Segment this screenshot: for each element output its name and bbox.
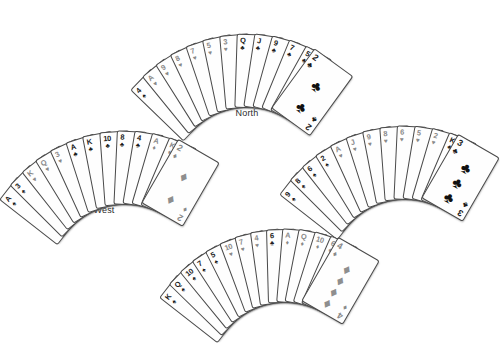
card-corner-index: 8♥: [174, 54, 184, 69]
card-corner-index: A♥: [334, 145, 345, 160]
card-suit-heart-icon: ♥: [44, 166, 51, 174]
card-corner-index: 9♠: [284, 191, 298, 203]
card-suit-diamond-icon: ♦: [152, 145, 157, 152]
card-suit-spade-icon: ♠: [213, 258, 219, 265]
card-corner-index: K♣: [86, 138, 94, 153]
card-suit-heart-icon: ♥: [338, 152, 344, 160]
card-suit-heart-icon: ♥: [240, 246, 245, 253]
card-corner-index: 7♥: [238, 238, 245, 253]
card-suit-club-icon: ♣: [442, 190, 457, 205]
card-suit-club-icon: ♣: [459, 160, 474, 175]
card-suit-heart-icon: ♥: [384, 138, 388, 145]
card-suit-club-icon: ♣: [270, 240, 274, 247]
card-corner-index: A♦: [284, 232, 290, 247]
card-corner-index: 10♦: [313, 235, 325, 251]
card-suit-club-icon: ♣: [72, 151, 78, 158]
card-suit-heart-icon: ♥: [368, 141, 373, 148]
card-corner-index: Q♦: [299, 232, 307, 247]
card-corner-index: 7♠: [196, 260, 207, 274]
card-corner-index: A♣: [70, 143, 79, 158]
card-suit-club-icon: ♣: [450, 175, 465, 190]
card-suit-diamond-icon: ♦: [285, 240, 289, 247]
card-corner-index: 5♥: [415, 129, 421, 144]
card-suit-diamond-icon: ♦: [165, 192, 178, 206]
card-corner-index: 9♣: [271, 39, 279, 54]
card-corner-index: 8♥: [383, 130, 388, 145]
card-suit-spade-icon: ♠: [180, 286, 187, 293]
card-suit-spade-icon: ♠: [201, 266, 207, 273]
card-corner-index: 2♠: [319, 154, 330, 168]
card-suit-heart-icon: ♥: [57, 158, 63, 166]
card-suit-club-icon: ♣: [240, 45, 244, 52]
card-suit-club-icon: ♣: [88, 146, 93, 153]
card-corner-index: K♠: [164, 293, 179, 306]
card-suit-heart-icon: ♥: [192, 55, 198, 62]
card-corner-index: 2♥: [431, 132, 439, 147]
card-corner-index: 5♠: [209, 251, 219, 266]
card-suit-heart-icon: ♥: [208, 49, 213, 56]
card-suit-heart-icon: ♥: [178, 62, 184, 70]
card-suit-spade-icon: ♠: [191, 275, 198, 282]
card-suit-diamond-icon: ♦: [300, 241, 305, 248]
card-corner-index: K♥: [26, 169, 39, 184]
card-suit-spade-icon: ♠: [300, 183, 307, 190]
card-corner-index: A♦: [151, 137, 160, 152]
card-corner-index: Q♣: [240, 37, 246, 52]
card-suit-club-icon: ♣: [271, 47, 277, 54]
card-corner-index: 9♥: [160, 64, 171, 78]
card-corner-index: 9♥: [366, 133, 373, 148]
card-suit-diamond-icon: ♦: [315, 243, 320, 250]
card-corner-index: 4♠: [135, 87, 148, 100]
card-suit-heart-icon: ♥: [255, 242, 260, 249]
card-corner-index: 6♥: [400, 129, 405, 144]
card-corner-index: J♣: [255, 37, 261, 52]
card-suit-heart-icon: ♥: [152, 80, 159, 87]
card-corner-index: A♥: [147, 74, 160, 88]
card-suit-club-icon: ♣: [105, 143, 110, 150]
card-corner-index: 3♥: [54, 150, 64, 165]
card-suit-heart-icon: ♥: [400, 137, 404, 144]
card-corner-index: 8♣: [120, 134, 125, 149]
card-corner-index: 3♥: [223, 38, 228, 53]
card-suit-club-icon: ♣: [135, 142, 140, 149]
card-suit-diamond-icon: ♦: [178, 170, 191, 184]
card-corner-index: A♠: [4, 195, 19, 208]
card-corner-index: 5♥: [206, 42, 213, 57]
card-suit-club-icon: ♣: [120, 142, 125, 149]
card-suit-spade-icon: ♠: [10, 200, 17, 207]
card-suit-spade-icon: ♠: [311, 171, 318, 178]
card-suit-heart-icon: ♥: [31, 176, 38, 183]
card-suit-club-icon: ♣: [255, 45, 260, 52]
card-corner-index: 7♥: [190, 47, 198, 62]
card-corner-index: 4♣: [135, 134, 142, 149]
card-corner-index: J♥: [350, 138, 358, 153]
card-suit-heart-icon: ♥: [224, 46, 228, 53]
card-suit-club-icon: ♣: [294, 100, 309, 115]
card-suit-heart-icon: ♥: [228, 251, 234, 258]
card-corner-index: 10♣: [103, 135, 112, 150]
card-suit-spade-icon: ♠: [170, 298, 177, 305]
card-suit-club-icon: ♣: [286, 51, 292, 59]
card-corner-index: 6♣: [270, 232, 275, 247]
card-suit-heart-icon: ♥: [415, 137, 420, 144]
card-suit-club-icon: ♣: [309, 79, 324, 94]
card-corner-index: 10♥: [224, 242, 236, 258]
card-suit-heart-icon: ♥: [352, 146, 358, 153]
card-corner-index: Q♥: [39, 158, 51, 173]
card-corner-index: 7♣: [286, 44, 295, 59]
card-suit-spade-icon: ♠: [20, 188, 27, 195]
card-suit-diamond-icon: ♦: [321, 296, 334, 310]
card-corner-index: 4♥: [254, 234, 260, 249]
card-suit-spade-icon: ♠: [290, 196, 297, 203]
card-suit-spade-icon: ♠: [141, 92, 148, 99]
card-suit-heart-icon: ♥: [431, 139, 437, 146]
card-suit-spade-icon: ♠: [324, 161, 330, 168]
card-suit-heart-icon: ♥: [164, 70, 171, 78]
